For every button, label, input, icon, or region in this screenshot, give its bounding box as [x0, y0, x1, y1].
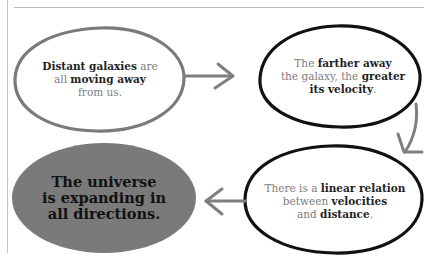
node-2-label: The farther away the galaxy, the greater… [268, 57, 418, 96]
diagram-canvas [0, 0, 440, 263]
node-1-label: Distant galaxies are all moving away fro… [30, 60, 170, 99]
arrow-left-icon [206, 189, 245, 214]
node-3-label: There is a linear relation between veloc… [254, 182, 416, 221]
arrow-right-icon [184, 64, 233, 88]
node-4-label: The universe is expanding in all directi… [22, 174, 186, 222]
